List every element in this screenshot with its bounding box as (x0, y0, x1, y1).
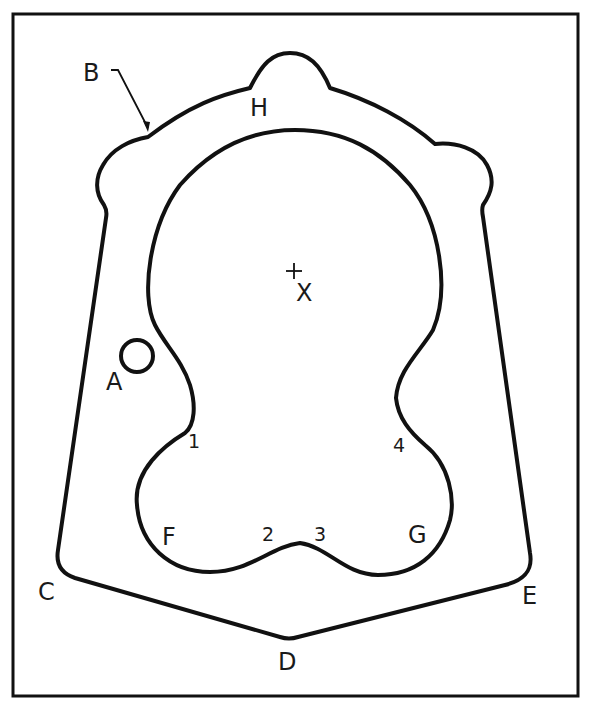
label-point-2: 2 (262, 523, 274, 545)
label-point-1: 1 (188, 430, 200, 452)
label-point-4: 4 (393, 434, 405, 456)
label-a: A (106, 368, 123, 396)
leader-line-b (111, 70, 148, 128)
label-h: H (250, 94, 268, 122)
label-b: B (83, 59, 99, 87)
label-x: X (296, 279, 312, 307)
drawing-canvas: B H X A 1 4 F 2 3 G C E D (0, 0, 590, 707)
center-mark-icon (286, 263, 302, 279)
arrowhead-icon (143, 121, 150, 132)
label-e: E (522, 582, 537, 610)
outer-outline (58, 53, 531, 639)
label-point-3: 3 (314, 523, 326, 545)
label-g: G (408, 521, 427, 549)
label-c: C (38, 578, 55, 606)
label-f: F (162, 523, 176, 551)
inner-cavity-outline (137, 130, 452, 575)
drawing-frame (13, 14, 578, 696)
label-d: D (278, 648, 296, 676)
hole-a (121, 340, 153, 372)
